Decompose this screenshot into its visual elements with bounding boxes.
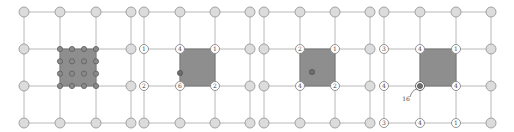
grid-node: [259, 118, 269, 128]
grid-node: [91, 7, 101, 17]
grid-node: [365, 118, 375, 128]
grid-node: [486, 81, 496, 91]
sub-node-dot: [93, 59, 98, 64]
grid-node: [55, 118, 65, 128]
sub-node-dot: [57, 46, 62, 51]
sample-point-dot: [177, 70, 182, 75]
grid-node: [379, 7, 389, 17]
annotation-label: 16: [402, 95, 410, 102]
node-label: 2: [333, 82, 337, 89]
sub-node-dot: [57, 59, 62, 64]
grid-node: [139, 7, 149, 17]
node-label: 3: [382, 119, 386, 126]
sub-node-dot: [93, 71, 98, 76]
annotation-arrow: [410, 89, 417, 97]
sub-node-dot: [69, 83, 74, 88]
grid-node: [245, 81, 255, 91]
diagram-canvas: 12461224123434414116: [0, 0, 514, 132]
grid-node: [365, 7, 375, 17]
grid-node: [451, 7, 461, 17]
grid-node: [91, 118, 101, 128]
grid-node: [19, 118, 29, 128]
grid-node: [210, 118, 220, 128]
grid-node: [19, 81, 29, 91]
shaded-cell: [60, 49, 96, 86]
sub-node-dot: [69, 46, 74, 51]
grid-node: [19, 44, 29, 54]
shaded-cell: [180, 49, 215, 86]
sub-node-dot: [57, 71, 62, 76]
panel-2: 124612: [139, 7, 255, 128]
grid-node: [139, 118, 149, 128]
node-label: 1: [333, 45, 337, 52]
panel-1: [19, 7, 136, 128]
sub-node-dot: [81, 71, 86, 76]
grid-node: [295, 118, 305, 128]
grid-node: [486, 7, 496, 17]
node-label: 2: [213, 82, 217, 89]
sub-node-dot: [93, 83, 98, 88]
sub-node-dot: [57, 83, 62, 88]
grid-node: [330, 118, 340, 128]
node-label: 1: [213, 45, 217, 52]
node-label: 1: [454, 45, 458, 52]
special-node-core: [417, 83, 422, 88]
node-label: 4: [178, 45, 182, 52]
node-label: 4: [418, 119, 422, 126]
grid-node: [259, 44, 269, 54]
grid-node: [126, 81, 136, 91]
node-label: 4: [382, 82, 386, 89]
grid-node: [126, 44, 136, 54]
grid-node: [245, 44, 255, 54]
node-label: 1: [142, 45, 146, 52]
sub-node-dot: [69, 71, 74, 76]
grid-node: [365, 81, 375, 91]
grid-node: [126, 7, 136, 17]
shaded-cell: [420, 49, 456, 86]
grid-node: [210, 7, 220, 17]
grid-node: [245, 118, 255, 128]
grid-node: [175, 118, 185, 128]
node-label: 4: [418, 45, 422, 52]
grid-node: [175, 7, 185, 17]
grid-node: [259, 7, 269, 17]
grid-node: [126, 118, 136, 128]
node-label: 6: [178, 82, 182, 89]
node-label: 1: [454, 119, 458, 126]
grid-node: [330, 7, 340, 17]
grid-node: [259, 81, 269, 91]
sub-node-dot: [81, 46, 86, 51]
grid-node: [19, 7, 29, 17]
shaded-cell: [300, 49, 335, 86]
sub-node-dot: [81, 83, 86, 88]
grid-node: [245, 7, 255, 17]
panel-3: 2412: [259, 7, 375, 128]
node-label: 3: [382, 45, 386, 52]
grid-node: [365, 44, 375, 54]
sub-node-dot: [69, 59, 74, 64]
node-label: 4: [298, 82, 302, 89]
grid-node: [486, 118, 496, 128]
grid-node: [486, 44, 496, 54]
sample-point-dot: [309, 69, 314, 74]
node-label: 4: [454, 82, 458, 89]
grid-node: [295, 7, 305, 17]
node-label: 2: [298, 45, 302, 52]
grid-node: [55, 7, 65, 17]
grid-refinement-diagram: 12461224123434414116: [0, 0, 514, 132]
panel-4: 3434414116: [379, 7, 496, 128]
sub-node-dot: [81, 59, 86, 64]
grid-node: [415, 7, 425, 17]
node-label: 2: [142, 82, 146, 89]
sub-node-dot: [93, 46, 98, 51]
